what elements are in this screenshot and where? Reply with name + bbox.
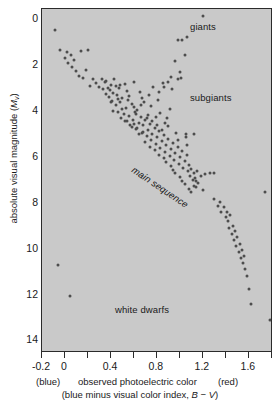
data-point <box>159 111 162 114</box>
data-point <box>183 53 186 56</box>
data-point <box>163 121 166 124</box>
data-point <box>128 95 131 98</box>
data-point <box>107 96 110 99</box>
data-point <box>109 83 112 86</box>
data-point <box>86 49 89 52</box>
data-point <box>167 124 170 127</box>
data-point <box>199 175 202 178</box>
data-point <box>222 206 225 209</box>
data-point <box>140 96 143 99</box>
data-point <box>213 172 216 175</box>
y-tick-label: 0 <box>8 12 38 24</box>
data-point <box>192 185 195 188</box>
data-point <box>220 211 223 214</box>
data-point <box>176 39 179 42</box>
data-point <box>242 261 245 264</box>
data-point <box>113 78 116 81</box>
data-point <box>185 144 188 147</box>
y-tick-label: 6 <box>8 150 38 162</box>
y-tick-label: 2 <box>8 58 38 70</box>
data-point <box>132 122 135 125</box>
x-tick-label: 1.6 <box>228 360 268 372</box>
data-point <box>154 143 157 146</box>
data-point <box>68 294 71 297</box>
data-point <box>166 116 169 119</box>
y-tick-label: 4 <box>8 104 38 116</box>
x-sublabel-prefix: (blue minus visual color index, <box>62 389 192 400</box>
hr-diagram-figure: giants subgiants main sequence white dwa… <box>0 0 280 405</box>
data-point <box>146 128 149 131</box>
data-point <box>132 80 135 83</box>
data-point <box>121 97 124 100</box>
data-point <box>123 82 126 85</box>
data-point <box>126 89 129 92</box>
data-point <box>213 198 216 201</box>
data-point <box>139 115 142 118</box>
data-point <box>228 227 231 230</box>
data-point <box>145 135 148 138</box>
x-tick <box>225 352 226 358</box>
data-point <box>181 150 184 153</box>
data-point <box>159 147 162 150</box>
data-point <box>250 302 253 305</box>
data-point <box>155 135 158 138</box>
data-point <box>118 87 121 90</box>
data-point <box>152 85 155 88</box>
data-point <box>165 143 168 146</box>
data-point <box>186 170 189 173</box>
x-tick <box>271 352 272 358</box>
y-tick-label: 10 <box>8 242 38 254</box>
data-point <box>189 174 192 177</box>
data-point <box>121 107 124 110</box>
data-point <box>168 154 171 157</box>
data-point <box>224 215 227 218</box>
data-point <box>184 132 187 135</box>
data-point <box>182 166 185 169</box>
data-point <box>69 53 72 56</box>
data-point <box>73 59 76 62</box>
data-point <box>151 120 154 123</box>
plot-area: giants subgiants main sequence white dwa… <box>41 8 272 352</box>
data-point <box>183 183 186 186</box>
data-point <box>195 180 198 183</box>
x-tick <box>87 352 88 358</box>
x-caption-blue: (blue) <box>36 376 60 387</box>
data-point <box>160 128 163 131</box>
data-point <box>184 136 187 139</box>
data-point <box>172 142 175 145</box>
data-point <box>201 189 204 192</box>
x-axis-label: observed photoelectric color <box>78 376 197 387</box>
data-point <box>226 210 229 213</box>
data-point <box>114 85 117 88</box>
data-point <box>82 76 85 79</box>
x-tick <box>110 352 111 358</box>
data-point <box>176 139 179 142</box>
data-point <box>178 71 181 74</box>
x-tick <box>179 352 180 358</box>
data-point <box>180 76 183 79</box>
data-point <box>116 98 119 101</box>
data-point <box>145 117 148 120</box>
data-point <box>243 254 246 257</box>
data-point <box>101 88 104 91</box>
data-point <box>176 146 179 149</box>
data-point <box>177 162 180 165</box>
data-point <box>158 91 161 94</box>
data-point <box>192 171 195 174</box>
data-point <box>247 288 250 291</box>
data-point <box>178 155 181 158</box>
data-point <box>154 115 157 118</box>
data-point <box>63 57 66 60</box>
data-point <box>142 131 145 134</box>
data-point <box>137 133 140 136</box>
data-point <box>122 112 125 115</box>
data-point <box>116 111 119 114</box>
data-point <box>201 14 204 17</box>
data-point <box>119 101 122 104</box>
data-point <box>135 113 138 116</box>
data-point <box>227 220 230 223</box>
data-point <box>157 99 160 102</box>
data-point <box>185 154 188 157</box>
data-point <box>119 84 122 87</box>
data-point <box>130 125 133 128</box>
